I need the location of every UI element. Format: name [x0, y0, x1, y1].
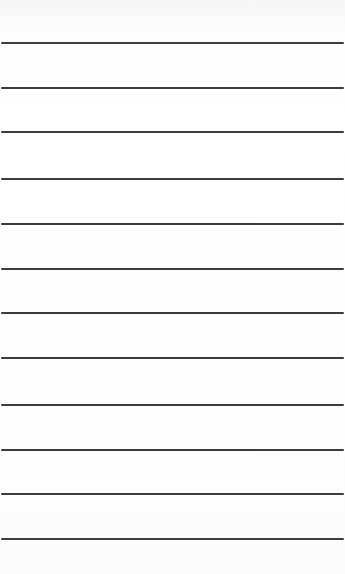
ruled-line-5: [1, 223, 344, 225]
ruled-line-7: [1, 312, 344, 314]
ruled-line-12: [1, 538, 344, 540]
ruled-line-9: [1, 404, 344, 406]
ruled-line-6: [1, 268, 344, 270]
ruled-line-8: [1, 357, 344, 359]
ruled-line-2: [1, 87, 344, 89]
ruled-line-1: [1, 42, 344, 44]
ruled-line-3: [1, 131, 344, 133]
ruled-line-4: [1, 178, 344, 180]
ruled-line-10: [1, 449, 344, 451]
lined-paper: [0, 0, 345, 574]
ruled-line-11: [1, 493, 344, 495]
